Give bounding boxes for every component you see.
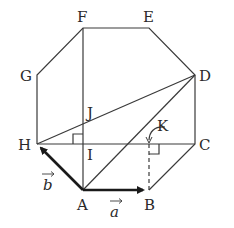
right-angle-mark-I (73, 134, 83, 144)
label-D: D (199, 67, 211, 85)
label-F: F (77, 8, 87, 26)
label-I: I (87, 146, 93, 164)
vector-a-text: a (110, 203, 119, 221)
right-angle-mark-K (149, 144, 159, 154)
vector-b-text: b (43, 176, 53, 194)
label-B: B (144, 196, 155, 214)
octagon-diagram: F E G D H C A B J I K b a (0, 0, 234, 228)
vector-a-label: a (110, 199, 122, 222)
label-G: G (20, 67, 32, 85)
label-J: J (85, 104, 93, 122)
label-A: A (76, 196, 88, 214)
vector-b-label: b (42, 172, 54, 195)
label-K: K (157, 117, 169, 135)
segment-AD (83, 75, 195, 190)
label-H: H (18, 136, 31, 154)
label-E: E (143, 8, 154, 26)
label-C: C (199, 136, 210, 154)
segment-HD (37, 75, 195, 144)
